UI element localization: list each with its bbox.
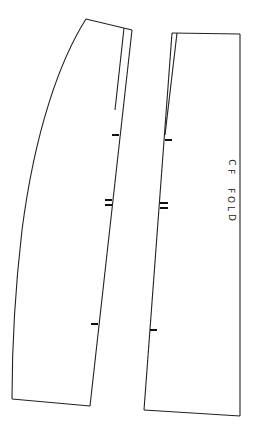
side-panel-seam-edge (90, 30, 132, 406)
label-letter: F (227, 169, 236, 174)
side-panel-waist-edge (86, 19, 132, 30)
pattern-canvas (0, 0, 254, 438)
side-panel-piece (12, 19, 132, 406)
side-panel-dart-line (115, 28, 124, 110)
label-letter: F (227, 188, 236, 193)
center-front-hem-edge (144, 410, 240, 416)
label-letter: O (227, 196, 236, 203)
center-front-seam-edge (144, 33, 172, 410)
center-front-top-edge (172, 33, 240, 34)
label-letter: D (227, 214, 236, 221)
side-panel-hem-edge (12, 399, 90, 406)
label-letter: L (226, 206, 235, 211)
cf-fold-label: C F F O L D (224, 158, 238, 222)
center-front-piece (144, 33, 240, 416)
side-panel-curved-edge (12, 19, 86, 399)
label-letter: C (226, 159, 235, 165)
